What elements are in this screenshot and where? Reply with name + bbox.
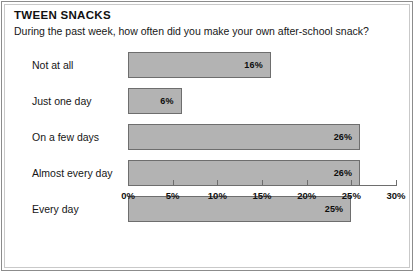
- bar-value-label: 16%: [244, 60, 263, 70]
- x-axis: 0%5%10%15%20%25%30%: [128, 185, 396, 225]
- category-label: On a few days: [32, 131, 99, 143]
- x-axis-tick-label: 30%: [386, 190, 405, 201]
- category-label: Not at all: [32, 59, 73, 71]
- x-axis-tick: [128, 180, 129, 186]
- x-axis-tick-label: 20%: [297, 190, 316, 201]
- bar-row: Just one day6%: [0, 83, 415, 119]
- x-axis-tick: [396, 180, 397, 186]
- x-axis-tick: [173, 180, 174, 186]
- x-axis-tick-label: 10%: [208, 190, 227, 201]
- bar: 26%: [128, 160, 360, 186]
- chart-content: TWEEN SNACKS During the past week, how o…: [0, 0, 415, 273]
- x-axis-tick-label: 25%: [342, 190, 361, 201]
- header-divider: [6, 40, 408, 41]
- x-axis-tick-label: 0%: [121, 190, 135, 201]
- bar: 6%: [128, 88, 182, 114]
- chart-screenshot: TWEEN SNACKS During the past week, how o…: [0, 0, 415, 273]
- category-label: Almost every day: [32, 167, 113, 179]
- x-axis-tick: [351, 180, 352, 186]
- x-axis-tick-label: 5%: [166, 190, 180, 201]
- plot-area: Not at all16%Just one day6%On a few days…: [0, 44, 415, 273]
- bar-row: On a few days26%: [0, 119, 415, 155]
- bar: 26%: [128, 124, 360, 150]
- x-axis-tick: [307, 180, 308, 186]
- category-label: Every day: [32, 203, 79, 215]
- bar-row: Not at all16%: [0, 47, 415, 83]
- bar: 16%: [128, 52, 271, 78]
- bar-value-label: 6%: [160, 96, 173, 106]
- bar-value-label: 26%: [334, 168, 353, 178]
- chart-subtitle: During the past week, how often did you …: [14, 25, 369, 37]
- x-axis-tick: [217, 180, 218, 186]
- x-axis-tick-label: 15%: [252, 190, 271, 201]
- category-label: Just one day: [32, 95, 92, 107]
- chart-title: TWEEN SNACKS: [14, 9, 111, 21]
- x-axis-tick: [262, 180, 263, 186]
- bar-value-label: 26%: [334, 132, 353, 142]
